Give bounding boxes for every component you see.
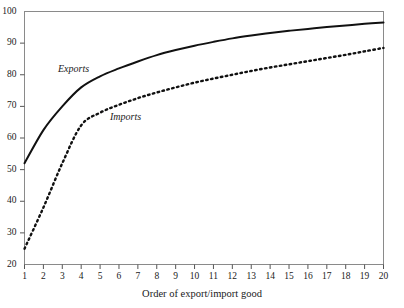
chart-figure: 2030405060708090100 12345678910111213141… [0, 0, 404, 308]
plot-frame [25, 12, 384, 265]
y-tick-label: 70 [0, 101, 17, 111]
plot-canvas [0, 0, 404, 308]
y-tick-label: 90 [0, 38, 17, 48]
y-tick-label: 20 [0, 260, 17, 270]
y-tick-label: 30 [0, 228, 17, 238]
y-tick-label: 60 [0, 133, 17, 143]
x-axis-title: Order of export/import good [0, 288, 404, 299]
y-axis-tick-marks [20, 43, 25, 233]
series-annotation-exports: Exports [58, 63, 89, 74]
y-tick-label: 100 [0, 7, 17, 17]
x-tick-label: 20 [372, 272, 396, 282]
series-annotation-imports: Imports [110, 111, 141, 122]
y-tick-label: 50 [0, 165, 17, 175]
y-tick-label: 40 [0, 196, 17, 206]
x-axis-tick-marks [25, 265, 384, 270]
y-tick-label: 80 [0, 70, 17, 80]
